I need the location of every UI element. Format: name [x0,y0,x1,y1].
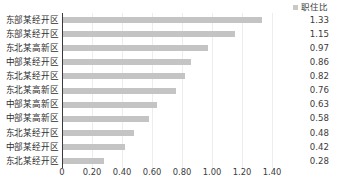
category-label: 东北某经开区 [0,129,62,138]
category-label: 中部某经开区 [0,58,62,67]
bar-value-label: 0.28 [272,157,341,166]
bar-value-label: 0.42 [272,143,341,152]
x-tick-label: 1.20 [233,168,252,176]
bar-cell [62,69,272,83]
bar[interactable] [62,17,262,23]
bar-value-label: 0.97 [272,44,341,53]
bar-row: 中部某高新区0.63 [0,98,341,112]
bar-row: 中部某高新区0.58 [0,112,341,126]
category-label: 东北某高新区 [0,86,62,95]
bar-value-label: 1.33 [272,16,341,25]
x-tick-label: 0.40 [113,168,132,176]
bar-row: 东北某高新区0.76 [0,83,341,97]
bar-value-label: 0.58 [272,114,341,123]
bar[interactable] [62,144,125,150]
bar-row: 东北某经开区0.28 [0,154,341,168]
bar-cell [62,27,272,41]
bar[interactable] [62,31,235,37]
bar[interactable] [62,102,157,108]
bar-rows: 东部某经开区1.33东部某经开区1.15东北某高新区0.97中部某经开区0.86… [0,13,341,168]
x-tick-label: 0.20 [83,168,102,176]
bar-cell [62,112,272,126]
category-label: 中部某高新区 [0,114,62,123]
bar-cell [62,83,272,97]
x-tick-label: 0.80 [173,168,192,176]
legend-swatch-icon [293,5,298,10]
category-label: 东部某经开区 [0,30,62,39]
bar-value-label: 0.86 [272,58,341,67]
bar[interactable] [62,59,191,65]
bar-cell [62,154,272,168]
bar-value-label: 1.15 [272,30,341,39]
category-label: 东北某经开区 [0,157,62,166]
bar-value-label: 0.63 [272,100,341,109]
x-axis: 00.200.400.600.801.001.201.40 [62,168,272,182]
bar[interactable] [62,116,149,122]
bar-cell [62,41,272,55]
x-tick-label: 1.40 [263,168,282,176]
bar[interactable] [62,130,134,136]
bar-value-label: 0.76 [272,86,341,95]
bar-row: 中部某经开区0.42 [0,140,341,154]
bar[interactable] [62,45,208,51]
legend-label: 职住比 [301,3,328,12]
bar-cell [62,98,272,112]
bar[interactable] [62,158,104,164]
x-tick-label: 0.60 [143,168,162,176]
category-label: 东部某经开区 [0,16,62,25]
bar-row: 中部某经开区0.86 [0,55,341,69]
bar-value-label: 0.48 [272,129,341,138]
x-tick-label: 0 [59,168,64,176]
x-tick-label: 1.00 [203,168,222,176]
plot-area: 东部某经开区1.33东部某经开区1.15东北某高新区0.97中部某经开区0.86… [0,13,341,168]
bar-cell [62,140,272,154]
category-label: 中部某经开区 [0,143,62,152]
bar-value-label: 0.82 [272,72,341,81]
bar[interactable] [62,73,185,79]
bar-row: 东北某经开区0.82 [0,69,341,83]
category-label: 东北某高新区 [0,44,62,53]
bar-cell [62,55,272,69]
bar[interactable] [62,88,176,94]
bar-cell [62,13,272,27]
y-axis-line [62,13,63,168]
bar-chart: 职住比 东部某经开区1.33东部某经开区1.15东北某高新区0.97中部某经开区… [0,0,341,187]
bar-cell [62,126,272,140]
bar-row: 东部某经开区1.33 [0,13,341,27]
bar-row: 东部某经开区1.15 [0,27,341,41]
bar-row: 东北某高新区0.97 [0,41,341,55]
category-label: 东北某经开区 [0,72,62,81]
bar-row: 东北某经开区0.48 [0,126,341,140]
category-label: 中部某高新区 [0,100,62,109]
